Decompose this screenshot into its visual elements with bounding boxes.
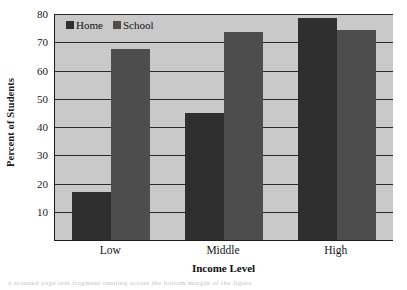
x-axis-title: Income Level — [54, 262, 393, 274]
legend-item-home: Home — [66, 19, 103, 31]
plot-area: HomeSchool — [54, 14, 393, 241]
y-axis-tick-labels: 1020304050607080 — [22, 0, 52, 245]
legend-swatch-school-icon — [113, 21, 121, 29]
bar-middle-school — [224, 32, 263, 240]
y-axis-title-label: Percent of Students — [6, 78, 17, 167]
y-tick-label-10: 10 — [37, 206, 48, 217]
bar-group-middle — [168, 14, 281, 240]
bar-low-home — [72, 192, 111, 240]
bar-chart-figure: Percent of Students 1020304050607080 Hom… — [0, 0, 407, 290]
legend-label-school: School — [123, 19, 154, 31]
legend-swatch-home-icon — [66, 21, 74, 29]
chart-legend: HomeSchool — [63, 18, 156, 32]
y-tick-label-50: 50 — [37, 93, 48, 104]
bar-high-school — [337, 30, 376, 240]
bar-middle-home — [185, 113, 224, 240]
legend-label-home: Home — [76, 19, 103, 31]
y-tick-label-30: 30 — [37, 150, 48, 161]
bars-layer — [55, 14, 393, 240]
bar-high-home — [298, 18, 337, 240]
legend-item-school: School — [113, 19, 154, 31]
bar-group-low — [55, 14, 168, 240]
y-tick-label-40: 40 — [37, 122, 48, 133]
y-tick-label-60: 60 — [37, 65, 48, 76]
y-tick-label-70: 70 — [37, 37, 48, 48]
x-tick-label-low: Low — [100, 244, 121, 256]
bar-low-school — [111, 49, 150, 240]
bar-group-high — [280, 14, 393, 240]
y-tick-label-80: 80 — [37, 9, 48, 20]
x-axis-tick-labels: LowMiddleHigh — [54, 244, 393, 262]
y-tick-label-20: 20 — [37, 178, 48, 189]
x-tick-label-high: High — [324, 244, 347, 256]
x-tick-label-middle: Middle — [206, 244, 239, 256]
y-axis-title: Percent of Students — [0, 0, 22, 245]
scan-artifact-text: a scanned page text fragment running acr… — [8, 279, 403, 288]
